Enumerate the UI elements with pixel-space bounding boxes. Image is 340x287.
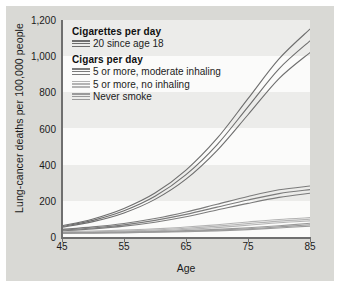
y-tick-label: 600 bbox=[10, 123, 56, 134]
legend-swatch-line-icon bbox=[72, 68, 90, 75]
series-line bbox=[62, 190, 310, 231]
y-tick-label: 400 bbox=[10, 159, 56, 170]
legend-label: Never smoke bbox=[93, 91, 152, 102]
y-tick-label: 200 bbox=[10, 195, 56, 206]
legend-item-cigarettes-20-since-18: 20 since age 18 bbox=[72, 38, 221, 49]
y-axis-line bbox=[61, 20, 63, 239]
y-tick-label: 1,200 bbox=[10, 15, 56, 26]
x-tick-label: 55 bbox=[118, 241, 129, 252]
chart-figure: Lung-cancer deaths per 100,000 people 1,… bbox=[0, 0, 340, 287]
legend-label: 20 since age 18 bbox=[93, 38, 164, 49]
x-tick-label: 85 bbox=[304, 241, 315, 252]
legend-item-never-smoke: Never smoke bbox=[72, 91, 221, 102]
x-tick-mark bbox=[186, 238, 187, 242]
y-axis-tick-labels: 1,200 1,000 800 600 400 200 0 bbox=[10, 0, 56, 287]
legend-label: 5 or more, no inhaling bbox=[93, 79, 190, 90]
y-tick-label: 1,000 bbox=[10, 51, 56, 62]
plot-area: Cigarettes per day 20 since age 18 Cigar… bbox=[62, 20, 310, 237]
legend-swatch-line-icon bbox=[72, 93, 90, 100]
legend-item-cigars-moderate-inhaling: 5 or more, moderate inhaling bbox=[72, 66, 221, 77]
x-tick-label: 45 bbox=[56, 241, 67, 252]
legend-heading-cigarettes: Cigarettes per day bbox=[72, 26, 221, 37]
x-axis-title: Age bbox=[62, 262, 310, 274]
legend-label: 5 or more, moderate inhaling bbox=[93, 66, 221, 77]
chart-legend: Cigarettes per day 20 since age 18 Cigar… bbox=[72, 26, 221, 104]
legend-swatch-line-icon bbox=[72, 81, 90, 88]
legend-swatch-line-icon bbox=[72, 40, 90, 47]
x-tick-mark bbox=[310, 238, 311, 242]
legend-item-cigars-no-inhaling: 5 or more, no inhaling bbox=[72, 79, 221, 90]
x-tick-mark bbox=[248, 238, 249, 242]
y-tick-label: 800 bbox=[10, 87, 56, 98]
legend-heading-cigars: Cigars per day bbox=[72, 54, 221, 65]
x-tick-label: 75 bbox=[242, 241, 253, 252]
y-tick-label: 0 bbox=[10, 232, 56, 243]
x-tick-label: 65 bbox=[180, 241, 191, 252]
x-tick-mark bbox=[62, 238, 63, 242]
x-tick-mark bbox=[124, 238, 125, 242]
